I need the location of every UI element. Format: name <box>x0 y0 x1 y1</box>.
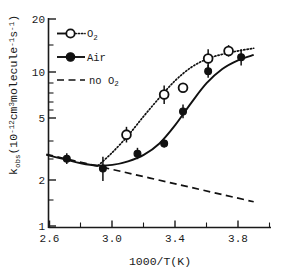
x-tick-label-3-8: 3.8 <box>228 233 248 245</box>
data-point-marker <box>100 165 107 172</box>
kinetics-plot: 20 10 5 2 1 2.6 3.0 3.4 3.8 1000/T(K) ko… <box>0 0 288 277</box>
figure-container: 20 10 5 2 1 2.6 3.0 3.4 3.8 1000/T(K) ko… <box>0 0 288 277</box>
x-tick-label-2-6: 2.6 <box>40 233 60 245</box>
x-tick-label-3-4: 3.4 <box>165 233 185 245</box>
data-point-marker <box>63 155 70 162</box>
y-tick-label-20: 20 <box>32 14 45 26</box>
y-tick-labels: 20 10 5 2 1 <box>32 14 46 233</box>
data-point-marker <box>122 130 131 139</box>
o2-fit-curve <box>98 48 254 165</box>
no-o2-trend-line <box>46 154 253 201</box>
air-data-points <box>63 49 244 181</box>
legend-air-marker-icon <box>66 53 74 61</box>
ylabel-exp1: -12 <box>8 120 16 134</box>
ylabel-obs: obs <box>14 155 22 169</box>
legend-air-label: Air <box>87 52 106 64</box>
legend-no-o2-label: no O2 <box>89 75 119 89</box>
fit-curves <box>46 48 253 202</box>
legend-o2-label: O2 <box>87 28 98 42</box>
x-tick-label-3-0: 3.0 <box>102 233 122 245</box>
svg-text:kobs(10-12cm3molecule-1s-1): kobs(10-12cm3molecule-1s-1) <box>7 15 22 175</box>
x-axis-title: 1000/T(K) <box>129 255 191 268</box>
data-point-marker <box>160 90 169 99</box>
legend-item-air[interactable]: Air <box>57 52 106 64</box>
data-point-marker <box>205 68 212 75</box>
ylabel-cm: cm <box>7 106 20 120</box>
y-axis-ticks <box>49 19 57 226</box>
data-point-marker <box>134 150 141 157</box>
data-point-marker <box>224 47 233 56</box>
y-tick-label-5: 5 <box>38 113 45 125</box>
o2-data-points <box>122 45 233 142</box>
x-axis-ticks <box>50 221 270 228</box>
data-point-marker <box>180 108 187 115</box>
axes-frame <box>49 18 272 228</box>
legend-item-no-o2[interactable]: no O2 <box>57 75 119 89</box>
y-tick-label-10: 10 <box>32 67 45 79</box>
ylabel-close: ) <box>7 15 20 22</box>
ylabel-s: s <box>7 31 20 38</box>
y-tick-label-2: 2 <box>38 175 45 187</box>
data-point-marker <box>204 54 213 63</box>
ylabel-molecule: molecule <box>7 47 20 102</box>
data-point-marker <box>161 140 168 147</box>
legend: O2 Air no O2 <box>57 28 119 88</box>
y-tick-label-1: 1 <box>38 221 45 233</box>
air-fit-curve <box>46 55 253 166</box>
data-point-marker <box>238 54 245 61</box>
x-tick-labels: 2.6 3.0 3.4 3.8 <box>40 233 248 245</box>
data-point-marker <box>179 83 188 92</box>
legend-o2-marker-icon <box>66 29 74 37</box>
y-axis-title: kobs(10-12cm3molecule-1s-1) <box>7 15 22 175</box>
legend-item-o2[interactable]: O2 <box>57 28 98 42</box>
ylabel-open: (10 <box>7 134 20 155</box>
